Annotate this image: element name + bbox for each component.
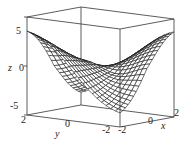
y-tick-0: 0 [65, 118, 70, 129]
z-tick-neg5: -5 [10, 100, 18, 111]
y-axis-ticks: 2 0 -2 y [21, 114, 110, 139]
z-tick-0: 0 [19, 62, 24, 73]
z-tick-5: 5 [16, 25, 21, 36]
y-tick-neg2: -2 [102, 124, 110, 135]
z-axis-ticks: 5 0 -5 z [7, 25, 24, 111]
surface-plot: 5 0 -5 z 2 0 -2 y -2 0 2 x [0, 0, 185, 142]
surface-mesh [27, 31, 174, 113]
x-tick-0: 0 [148, 115, 153, 126]
z-axis-label: z [7, 62, 12, 73]
y-axis-label: y [54, 128, 60, 139]
x-axis-label: x [160, 120, 166, 131]
x-tick-neg2: -2 [118, 124, 126, 135]
y-tick-2: 2 [21, 114, 26, 125]
x-tick-2: 2 [174, 107, 179, 118]
